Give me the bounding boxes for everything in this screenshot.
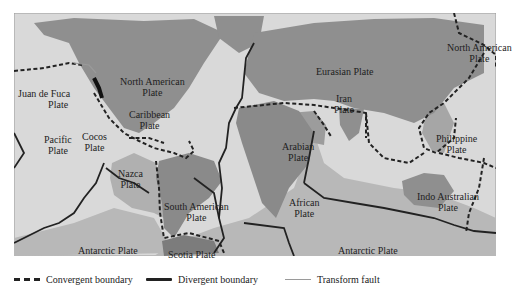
plate-label-pacific: Pacific Plate: [44, 134, 72, 156]
plate-label-antarctic-west: Antarctic Plate: [78, 245, 138, 256]
transform-fault-swatch-icon: [285, 279, 311, 280]
legend-item-transform: Transform fault: [285, 274, 380, 285]
plate-label-antarctic-east: Antarctic Plate: [338, 245, 398, 256]
legend-item-convergent: Convergent boundary: [14, 274, 133, 285]
plate-label-north-american-east: North American Plate: [447, 42, 512, 64]
plate-label-juan-de-fuca: Juan de Fuca Plate: [18, 88, 70, 110]
plate-label-eurasian: Eurasian Plate: [316, 66, 373, 77]
plate-label-north-american-west: North American Plate: [120, 76, 185, 98]
plate-label-arabian: Arabian Plate: [282, 141, 314, 163]
plate-label-philippine: Philippine Plate: [436, 133, 477, 155]
plate-label-cocos: Cocos Plate: [82, 131, 107, 153]
plate-label-indo-australian: Indo Australian Plate: [417, 191, 479, 213]
plate-label-south-american: South American Plate: [164, 201, 229, 223]
tectonic-plate-map: Juan de Fuca Plate North American Plate …: [14, 13, 496, 256]
legend: Convergent boundary Divergent boundary T…: [0, 272, 518, 292]
plate-label-african: African Plate: [289, 197, 320, 219]
plate-label-nazca: Nazca Plate: [118, 168, 143, 190]
plate-label-caribbean: Caribbean Plate: [129, 109, 170, 131]
plate-label-iran: Iran Plate: [334, 93, 354, 115]
divergent-boundary-swatch-icon: [146, 278, 172, 281]
legend-item-divergent: Divergent boundary: [146, 274, 258, 285]
convergent-boundary-swatch-icon: [14, 278, 40, 281]
plate-label-scotia: Scotia Plate: [168, 249, 216, 260]
